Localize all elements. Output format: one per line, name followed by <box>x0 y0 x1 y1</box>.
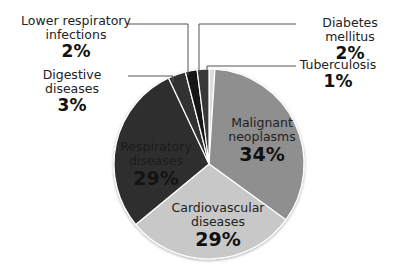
label-name: Malignant <box>222 116 302 130</box>
label-pct: 29% <box>168 229 268 250</box>
leader-line-diabetes <box>199 24 296 72</box>
label-lower-respiratory: Lower respiratory infections 2% <box>20 14 132 60</box>
label-name: Digestive diseases <box>14 68 130 96</box>
label-pct: 3% <box>14 96 130 115</box>
label-pct: 1% <box>298 72 378 91</box>
leader-line-lower-resp <box>128 24 188 75</box>
label-cardiovascular: Cardiovascular diseases 29% <box>168 201 268 249</box>
label-name: neoplasms <box>222 130 302 144</box>
label-name: Cardiovascular <box>168 201 268 215</box>
label-name: Lower respiratory <box>20 14 132 28</box>
label-pct: 29% <box>116 168 196 189</box>
label-name: infections <box>20 28 132 42</box>
label-name: Tuberculosis <box>298 58 378 72</box>
label-name: Diabetes mellitus <box>298 16 402 44</box>
label-tuberculosis: Tuberculosis 1% <box>298 58 378 90</box>
label-pct: 34% <box>222 144 302 165</box>
label-name: Respiratory <box>116 140 196 154</box>
label-malignant: Malignant neoplasms 34% <box>222 116 302 164</box>
label-digestive: Digestive diseases 3% <box>14 68 130 114</box>
label-name: diseases <box>116 154 196 168</box>
label-name: diseases <box>168 215 268 229</box>
label-respiratory: Respiratory diseases 29% <box>116 140 196 188</box>
label-pct: 2% <box>20 42 132 61</box>
label-diabetes: Diabetes mellitus 2% <box>298 16 402 62</box>
